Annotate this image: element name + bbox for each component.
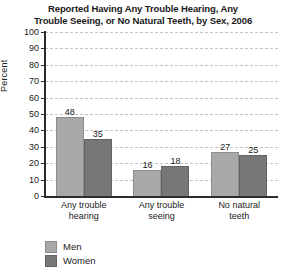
chart-legend: Men Women <box>45 240 96 268</box>
x-axis-tick-label: No naturalteeth <box>203 200 275 222</box>
bar-group: 4835 <box>56 32 112 196</box>
x-axis-tick-label-line: teeth <box>203 211 275 222</box>
y-axis-tick-label: 100 <box>24 28 39 37</box>
bar-men: 27 <box>211 152 239 196</box>
y-axis-tick-label: 30 <box>29 142 39 151</box>
bar-men: 48 <box>56 117 84 196</box>
y-axis-tick-label: 60 <box>29 93 39 102</box>
legend-item-men: Men <box>45 240 96 254</box>
legend-label-men: Men <box>63 242 81 252</box>
x-axis-tick-label-line: hearing <box>48 211 120 222</box>
x-axis-tick-label: Any troublehearing <box>48 200 120 222</box>
x-axis-tick-label-line: No natural <box>203 200 275 211</box>
bar-group: 2725 <box>211 32 267 196</box>
bar-value-label: 48 <box>65 107 75 117</box>
x-axis-tick-label-line: seeing <box>125 211 197 222</box>
legend-label-women: Women <box>63 256 96 266</box>
chart-title-line-1: Reported Having Any Trouble Hearing, Any <box>8 3 278 15</box>
x-axis-tick-labels: Any troublehearingAny troubleseeingNo na… <box>45 200 278 222</box>
legend-swatch-men <box>45 241 57 253</box>
y-axis-tick-label: 90 <box>29 44 39 53</box>
x-axis-tick-label-line: Any trouble <box>48 200 120 211</box>
y-axis-tick-label: 50 <box>29 110 39 119</box>
bar-value-label: 27 <box>220 142 230 152</box>
bar-women: 25 <box>239 155 267 196</box>
bar-groups: 483516182725 <box>45 32 278 196</box>
bar-chart: Reported Having Any Trouble Hearing, Any… <box>0 0 286 272</box>
y-axis-tick-label: 20 <box>29 159 39 168</box>
bar-value-label: 16 <box>142 160 152 170</box>
bar-value-label: 18 <box>170 156 180 166</box>
y-axis-tick-label: 40 <box>29 126 39 135</box>
x-axis-line <box>44 196 278 198</box>
chart-title: Reported Having Any Trouble Hearing, Any… <box>8 3 278 27</box>
y-axis-tick-label: 80 <box>29 60 39 69</box>
bar-group: 1618 <box>133 32 189 196</box>
y-axis-tick-label: 10 <box>29 175 39 184</box>
y-axis-label: Percent <box>0 60 9 92</box>
legend-item-women: Women <box>45 254 96 268</box>
bar-women: 18 <box>161 166 189 196</box>
x-axis-tick-label: Any troubleseeing <box>125 200 197 222</box>
y-axis-tick-label: 70 <box>29 77 39 86</box>
bar-value-label: 35 <box>93 129 103 139</box>
chart-title-line-2: Trouble Seeing, or No Natural Teeth, by … <box>8 15 278 27</box>
x-axis-tick-label-line: Any trouble <box>125 200 197 211</box>
bar-men: 16 <box>133 170 161 196</box>
bar-women: 35 <box>84 139 112 196</box>
bar-value-label: 25 <box>248 145 258 155</box>
legend-swatch-women <box>45 255 57 267</box>
y-axis-tick-label: 0 <box>34 192 39 201</box>
